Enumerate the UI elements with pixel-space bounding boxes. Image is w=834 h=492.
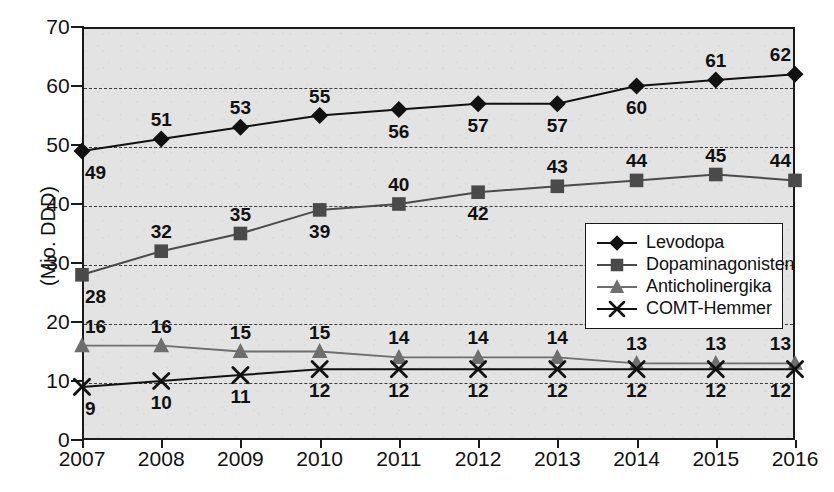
y-tick-label: 70 xyxy=(24,15,70,39)
legend-item-dopaminagonisten[interactable]: Dopaminagonisten xyxy=(596,254,772,275)
data-point-label: 16 xyxy=(151,316,172,338)
square-marker xyxy=(392,197,406,211)
square-marker xyxy=(709,168,723,182)
legend-label: Levodopa xyxy=(646,232,724,253)
data-point-label: 45 xyxy=(705,145,726,167)
data-point-label: 49 xyxy=(85,162,106,184)
diamond-marker xyxy=(390,101,407,118)
diamond-marker xyxy=(628,78,645,95)
data-point-label: 13 xyxy=(770,333,791,355)
x-tick-label: 2015 xyxy=(692,447,739,471)
data-point-label: 53 xyxy=(230,97,251,119)
data-point-label: 14 xyxy=(388,327,409,349)
data-point-label: 12 xyxy=(770,380,791,402)
legend-item-anticholinergika[interactable]: Anticholinergika xyxy=(596,276,772,297)
data-point-label: 42 xyxy=(468,203,489,225)
data-point-label: 12 xyxy=(468,380,489,402)
x-tick-mark xyxy=(240,440,242,448)
data-point-label: 55 xyxy=(309,86,330,108)
legend-swatch-square xyxy=(596,255,638,275)
data-point-label: 40 xyxy=(388,174,409,196)
x-tick-label: 2016 xyxy=(772,447,819,471)
series-anticholinergika xyxy=(74,337,803,370)
square-marker xyxy=(471,185,485,199)
legend-label: COMT-Hemmer xyxy=(646,298,772,319)
x-tick-mark xyxy=(399,440,401,448)
legend-label: Anticholinergika xyxy=(646,276,771,297)
chart-figure: (Mio. DDD) 010203040506070 2007200820092… xyxy=(0,0,834,492)
data-point-label: 13 xyxy=(626,333,647,355)
data-point-label: 61 xyxy=(705,50,726,72)
legend-label: Dopaminagonisten xyxy=(646,254,795,275)
y-tick-label: 50 xyxy=(24,133,70,157)
x-tick-mark xyxy=(795,440,797,448)
data-point-label: 44 xyxy=(626,150,647,172)
y-tick-label: 60 xyxy=(24,74,70,98)
x-tick-mark xyxy=(161,440,163,448)
square-marker xyxy=(611,258,624,271)
data-point-label: 28 xyxy=(85,286,106,308)
legend-swatch-triangle xyxy=(596,277,638,297)
data-point-label: 56 xyxy=(388,121,409,143)
y-tick-label: 10 xyxy=(24,369,70,393)
data-point-label: 15 xyxy=(309,322,330,344)
diamond-marker xyxy=(470,95,487,112)
series-comt-hemmer xyxy=(74,362,802,395)
data-point-label: 15 xyxy=(230,322,251,344)
square-marker xyxy=(551,180,565,194)
data-point-label: 44 xyxy=(770,150,791,172)
data-point-label: 12 xyxy=(626,380,647,402)
data-point-label: 12 xyxy=(309,380,330,402)
square-marker xyxy=(154,244,168,258)
series-line xyxy=(82,369,795,387)
data-point-label: 10 xyxy=(151,392,172,414)
y-tick-label: 40 xyxy=(24,192,70,216)
data-point-label: 14 xyxy=(468,327,489,349)
x-tick-label: 2014 xyxy=(613,447,660,471)
legend-item-comt-hemmer[interactable]: COMT-Hemmer xyxy=(596,298,772,319)
data-point-label: 12 xyxy=(388,380,409,402)
series-levodopa xyxy=(74,66,804,160)
series-line xyxy=(82,346,795,364)
x-tick-label: 2009 xyxy=(217,447,264,471)
square-marker xyxy=(313,203,327,217)
triangle-marker xyxy=(550,349,566,364)
data-point-label: 13 xyxy=(705,333,726,355)
triangle-marker xyxy=(153,337,169,352)
diamond-marker xyxy=(707,72,724,89)
x-tick-mark xyxy=(716,440,718,448)
y-tick-label: 30 xyxy=(24,251,70,275)
data-point-label: 43 xyxy=(547,156,568,178)
diamond-marker xyxy=(232,119,249,136)
triangle-marker xyxy=(470,349,486,364)
x-tick-label: 2008 xyxy=(138,447,185,471)
square-marker xyxy=(234,227,248,241)
data-point-label: 11 xyxy=(230,386,250,408)
chart-legend: LevodopaDopaminagonistenAnticholinergika… xyxy=(585,223,783,329)
data-point-label: 62 xyxy=(770,44,791,66)
data-point-label: 57 xyxy=(468,115,489,137)
square-marker xyxy=(788,174,802,188)
diamond-marker xyxy=(311,107,328,124)
data-point-label: 32 xyxy=(151,221,172,243)
data-point-label: 39 xyxy=(309,221,330,243)
data-point-label: 60 xyxy=(626,97,647,119)
triangle-marker xyxy=(74,337,90,352)
x-tick-label: 2013 xyxy=(534,447,581,471)
data-point-label: 14 xyxy=(547,327,568,349)
x-tick-label: 2007 xyxy=(59,447,106,471)
series-line xyxy=(82,74,795,151)
data-point-label: 9 xyxy=(85,398,96,420)
square-marker xyxy=(630,174,644,188)
legend-item-levodopa[interactable]: Levodopa xyxy=(596,232,772,253)
x-tick-mark xyxy=(320,440,322,448)
y-tick-label: 20 xyxy=(24,310,70,334)
x-tick-mark xyxy=(637,440,639,448)
x-tick-label: 2011 xyxy=(376,447,421,471)
square-marker xyxy=(75,268,89,282)
diamond-marker xyxy=(609,235,625,251)
legend-swatch-cross xyxy=(596,299,638,319)
diamond-marker xyxy=(787,66,804,83)
x-tick-mark xyxy=(557,440,559,448)
data-point-label: 12 xyxy=(547,380,568,402)
